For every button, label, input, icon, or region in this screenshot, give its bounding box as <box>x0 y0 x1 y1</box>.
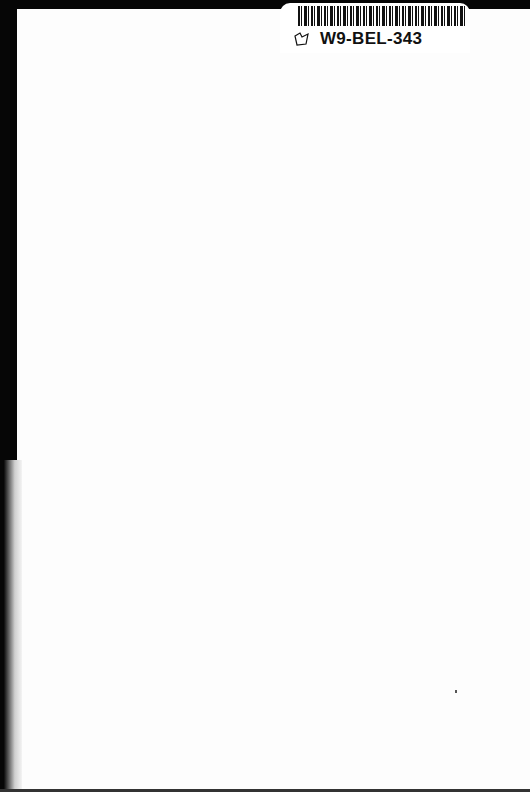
page-edge <box>4 460 22 790</box>
barcode-id: W9-BEL-343 <box>320 29 422 49</box>
blank-page <box>17 9 530 789</box>
barcode <box>298 6 466 26</box>
book-icon <box>294 32 310 46</box>
library-barcode-label: W9-BEL-343 <box>280 3 470 53</box>
dust-speck <box>455 690 457 693</box>
